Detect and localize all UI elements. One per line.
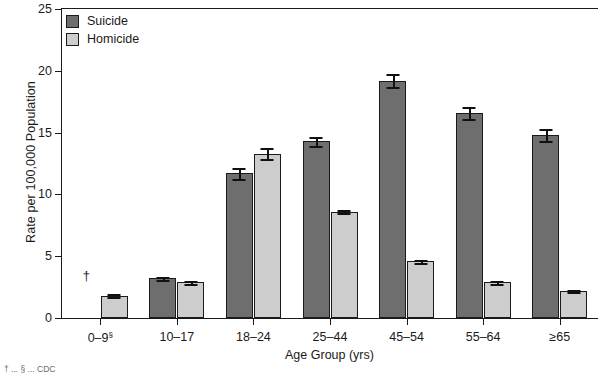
x-axis-tick-label: 10–17 xyxy=(159,330,194,344)
error-bar-cap xyxy=(156,277,169,279)
x-axis-tick xyxy=(407,318,408,325)
y-axis-tick xyxy=(55,256,62,257)
error-bar-cap xyxy=(261,159,274,161)
y-axis-tick xyxy=(55,133,62,134)
bar-suicide-3 xyxy=(303,141,330,318)
legend: Suicide Homicide xyxy=(66,14,139,50)
error-bar-cap xyxy=(539,141,552,143)
error-bar xyxy=(393,74,395,88)
error-bar-cap xyxy=(567,292,580,294)
error-bar-cap xyxy=(414,263,427,265)
x-axis-tick-label: 55–64 xyxy=(466,330,501,344)
error-bar-cap xyxy=(310,137,323,139)
error-bar-cap xyxy=(338,213,351,215)
x-axis-label: Age Group (yrs) xyxy=(60,348,599,362)
legend-label-homicide: Homicide xyxy=(87,32,139,46)
y-axis-tick xyxy=(55,318,62,319)
annotation-dagger: † xyxy=(83,269,90,282)
x-axis-tick-label: 0–9§ xyxy=(88,330,113,345)
error-bar-cap xyxy=(261,148,274,150)
error-bar-cap xyxy=(233,179,246,181)
legend-swatch-homicide-icon xyxy=(66,33,79,46)
footnote: † ... § ... CDC xyxy=(4,364,56,374)
x-axis-tick-label: 45–54 xyxy=(389,330,424,344)
x-axis-tick xyxy=(483,318,484,325)
y-axis-tick-label: 25 xyxy=(38,2,52,16)
bar-suicide-6 xyxy=(532,135,559,318)
legend-swatch-suicide-icon xyxy=(66,15,79,28)
x-axis-tick xyxy=(330,318,331,325)
y-axis-tick xyxy=(55,71,62,72)
bar-suicide-1 xyxy=(149,278,176,318)
legend-label-suicide: Suicide xyxy=(87,14,128,28)
error-bar-cap xyxy=(338,210,351,212)
y-axis-label: Rate per 100,000 Population xyxy=(24,37,38,287)
y-axis-tick xyxy=(55,194,62,195)
error-bar-cap xyxy=(386,87,399,89)
error-bar-cap xyxy=(184,281,197,283)
error-bar-cap xyxy=(108,297,121,299)
bar-homicide-1 xyxy=(177,282,204,318)
x-axis-tick xyxy=(177,318,178,325)
y-axis-tick-label: 15 xyxy=(38,126,52,140)
error-bar-cap xyxy=(386,74,399,76)
x-axis-tick-label: 25–44 xyxy=(313,330,348,344)
error-bar-cap xyxy=(156,280,169,282)
legend-item-homicide: Homicide xyxy=(66,32,139,46)
legend-item-suicide: Suicide xyxy=(66,14,139,28)
bar-homicide-3 xyxy=(331,212,358,318)
bar-homicide-4 xyxy=(407,261,434,318)
bar-homicide-2 xyxy=(254,154,281,318)
y-axis-tick xyxy=(55,9,62,10)
y-axis-tick-label: 20 xyxy=(38,64,52,78)
error-bar-cap xyxy=(233,168,246,170)
y-axis-tick-label: 10 xyxy=(38,187,52,201)
error-bar-cap xyxy=(414,260,427,262)
bar-suicide-5 xyxy=(456,113,483,318)
y-axis-tick-label: 5 xyxy=(45,249,52,263)
error-bar-cap xyxy=(491,284,504,286)
bar-suicide-4 xyxy=(379,81,406,318)
error-bar-cap xyxy=(184,284,197,286)
error-bar-cap xyxy=(108,294,121,296)
x-axis-tick-label: 18–24 xyxy=(236,330,271,344)
error-bar-cap xyxy=(463,107,476,109)
x-axis-tick xyxy=(253,318,254,325)
bar-suicide-2 xyxy=(226,173,253,318)
plot-area: 05101520250–9§10–1718–2425–4445–5455–64≥… xyxy=(61,8,598,319)
bar-homicide-6 xyxy=(560,291,587,318)
x-axis-tick xyxy=(560,318,561,325)
x-axis-tick xyxy=(100,318,101,325)
error-bar-cap xyxy=(539,129,552,131)
error-bar-cap xyxy=(491,281,504,283)
x-axis-tick-label: ≥65 xyxy=(549,330,570,344)
error-bar-cap xyxy=(463,119,476,121)
error-bar-cap xyxy=(310,146,323,148)
y-axis-tick-label: 0 xyxy=(45,311,52,325)
bar-homicide-5 xyxy=(484,282,511,318)
